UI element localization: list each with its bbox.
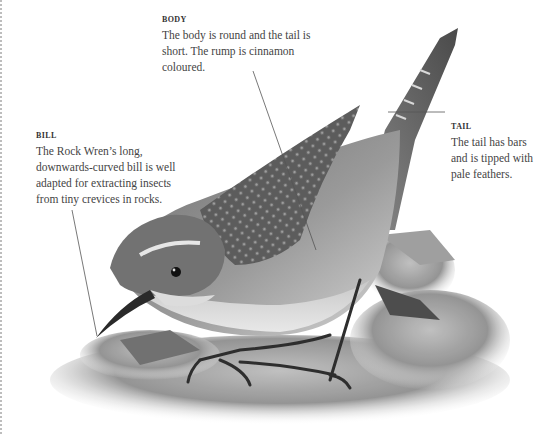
annotation-bill-title: BILL (36, 131, 186, 140)
annotation-bill-text: The Rock Wren’s long, downwards-curved b… (36, 143, 186, 207)
annotation-tail-title: TAIL (451, 122, 546, 131)
annotation-body-title: BODY (162, 15, 312, 24)
annotation-body: BODY The body is round and the tail is s… (162, 15, 312, 75)
annotation-tail: TAIL The tail has bars and is tipped wit… (451, 122, 546, 182)
annotation-bill: BILL The Rock Wren’s long, downwards-cur… (36, 131, 186, 207)
annotation-tail-text: The tail has bars and is tipped with pal… (451, 134, 546, 182)
annotation-body-text: The body is round and the tail is short.… (162, 27, 312, 75)
bill-leader-line (72, 210, 97, 336)
